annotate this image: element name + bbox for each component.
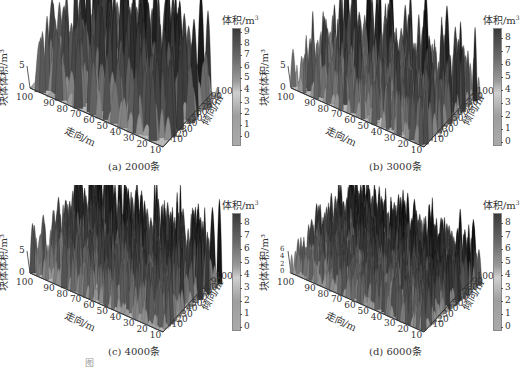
z-axis-tick: 5 — [19, 60, 25, 70]
x-axis-tick: 100 — [277, 277, 294, 287]
x-axis-tick: 30 — [123, 318, 134, 328]
x-axis-tick: 20 — [397, 324, 408, 334]
colorbar-tick-mark — [240, 136, 242, 137]
colorbar-tick: 8 — [244, 217, 250, 227]
panel-caption: (c) 4000条 — [108, 343, 160, 358]
colorbar-tick-mark — [501, 51, 503, 52]
colorbar-tick: 5 — [505, 71, 511, 81]
panel-caption: (d) 6000条 — [369, 343, 422, 358]
colorbar-tick: 4 — [505, 269, 511, 279]
colorbar-tick: 6 — [505, 58, 511, 68]
z-axis-tick: 0 — [19, 267, 25, 277]
colorbar-tick: 0 — [244, 321, 250, 331]
surface-plot-panel-d: 0246块体体积/m³100908070605040302010走向/m1020… — [261, 185, 523, 370]
colorbar-tick-mark — [240, 249, 242, 250]
colorbar-tick: 3 — [505, 282, 511, 292]
colorbar-tick: 1 — [244, 308, 250, 318]
colorbar-tick-mark — [501, 223, 503, 224]
colorbar-tick-mark — [240, 327, 242, 328]
x-axis-tick: 20 — [136, 324, 147, 334]
x-axis-tick: 80 — [318, 104, 329, 114]
colorbar-tick: 4 — [244, 269, 250, 279]
z-axis-tick: 0 — [19, 82, 25, 92]
colorbar-tick-mark — [501, 103, 503, 104]
z-axis-label: 块体体积/m³ — [0, 49, 10, 106]
x-axis-tick: 80 — [57, 289, 68, 299]
colorbar-tick: 7 — [505, 230, 511, 240]
x-axis-tick: 70 — [70, 109, 81, 119]
x-axis-tick: 30 — [384, 318, 395, 328]
z-axis-tick: 2 — [280, 260, 284, 268]
colorbar-tick: 6 — [244, 61, 250, 71]
colorbar-title: 体积/m3 — [483, 12, 520, 27]
x-axis-tick: 60 — [83, 300, 94, 310]
colorbar-tick: 1 — [505, 123, 511, 133]
x-axis-tick: 40 — [110, 127, 121, 137]
colorbar-title: 体积/m3 — [222, 197, 259, 212]
colorbar-tick: 2 — [505, 295, 511, 305]
colorbar-tick: 2 — [244, 295, 250, 305]
z-axis-tick: 0 — [280, 82, 286, 92]
x-axis-tick: 30 — [384, 133, 395, 143]
colorbar-tick-mark — [240, 275, 242, 276]
panel-caption: (a) 2000条 — [108, 158, 160, 173]
colorbar-tick-mark — [501, 314, 503, 315]
x-axis-tick: 70 — [331, 294, 342, 304]
colorbar-tick: 5 — [505, 256, 511, 266]
colorbar-tick-mark — [240, 102, 242, 103]
colorbar-tick-mark — [240, 55, 242, 56]
surface-plot-panel-c: 05块体体积/m³100908070605040302010走向/m102030… — [0, 185, 262, 370]
colorbar-tick: 1 — [505, 308, 511, 318]
x-axis-tick: 100 — [277, 92, 294, 102]
colorbar-tick-mark — [240, 67, 242, 68]
colorbar-tick-mark — [240, 288, 242, 289]
z-axis-tick: 4 — [280, 252, 284, 260]
colorbar-tick-mark — [240, 90, 242, 91]
x-axis-tick: 10 — [150, 330, 161, 340]
colorbar-tick: 4 — [244, 84, 250, 94]
x-axis-tick: 50 — [357, 121, 368, 131]
colorbar-tick-mark — [240, 223, 242, 224]
z-axis-label: 块体体积/m³ — [256, 234, 271, 291]
z-axis-label: 块体体积/m³ — [256, 49, 271, 106]
colorbar-tick-mark — [501, 64, 503, 65]
colorbar-tick: 2 — [244, 107, 250, 117]
colorbar-tick-mark — [501, 262, 503, 263]
colorbar-tick-mark — [240, 32, 242, 33]
colorbar — [232, 28, 241, 146]
colorbar-tick-mark — [501, 38, 503, 39]
colorbar-tick-mark — [501, 129, 503, 130]
colorbar-tick-mark — [240, 301, 242, 302]
colorbar-tick-mark — [240, 236, 242, 237]
colorbar-tick-mark — [501, 116, 503, 117]
colorbar-tick-mark — [501, 327, 503, 328]
x-axis-tick: 90 — [304, 283, 315, 293]
colorbar-tick: 0 — [244, 130, 250, 140]
colorbar-title: 体积/m3 — [222, 12, 259, 27]
colorbar-tick: 5 — [244, 256, 250, 266]
colorbar-tick: 3 — [244, 282, 250, 292]
colorbar-tick-mark — [501, 90, 503, 91]
x-axis-tick: 80 — [57, 104, 68, 114]
x-axis-tick: 30 — [123, 133, 134, 143]
surface-plot-panel-b: 05块体体积/m³100908070605040302010走向/m102030… — [261, 0, 523, 185]
x-axis-tick: 20 — [397, 139, 408, 149]
colorbar-tick: 0 — [505, 321, 511, 331]
x-axis-tick: 80 — [318, 289, 329, 299]
colorbar-tick-mark — [240, 113, 242, 114]
x-axis-tick: 70 — [331, 109, 342, 119]
colorbar-tick: 5 — [244, 72, 250, 82]
panel-caption: (b) 3000条 — [369, 158, 422, 173]
x-axis-tick: 10 — [411, 145, 422, 155]
colorbar-tick-mark — [240, 262, 242, 263]
colorbar-tick: 3 — [244, 96, 250, 106]
colorbar-tick-mark — [501, 249, 503, 250]
z-axis-tick: 5 — [19, 245, 25, 255]
colorbar-tick: 8 — [505, 32, 511, 42]
x-axis-tick: 70 — [70, 294, 81, 304]
z-axis-tick: 5 — [280, 60, 286, 70]
surface-plot-panel-a: 05块体体积/m³100908070605040302010走向/m102030… — [0, 0, 262, 185]
colorbar-title: 体积/m3 — [483, 197, 520, 212]
colorbar-tick: 9 — [244, 26, 250, 36]
colorbar-tick-mark — [501, 288, 503, 289]
